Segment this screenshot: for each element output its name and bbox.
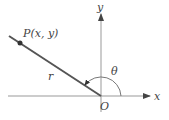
x-axis-label: x [154, 90, 161, 103]
angle-label: θ [111, 65, 118, 78]
origin-label: O [100, 100, 109, 113]
theta-arc [85, 77, 121, 96]
point-label: P(x, y) [22, 27, 58, 40]
radius-ray [9, 36, 101, 96]
radius-label: r [48, 70, 54, 83]
y-axis-label: y [96, 1, 104, 14]
polar-diagram: P(x, y) r θ O x y [0, 0, 169, 120]
point-p [18, 41, 23, 46]
